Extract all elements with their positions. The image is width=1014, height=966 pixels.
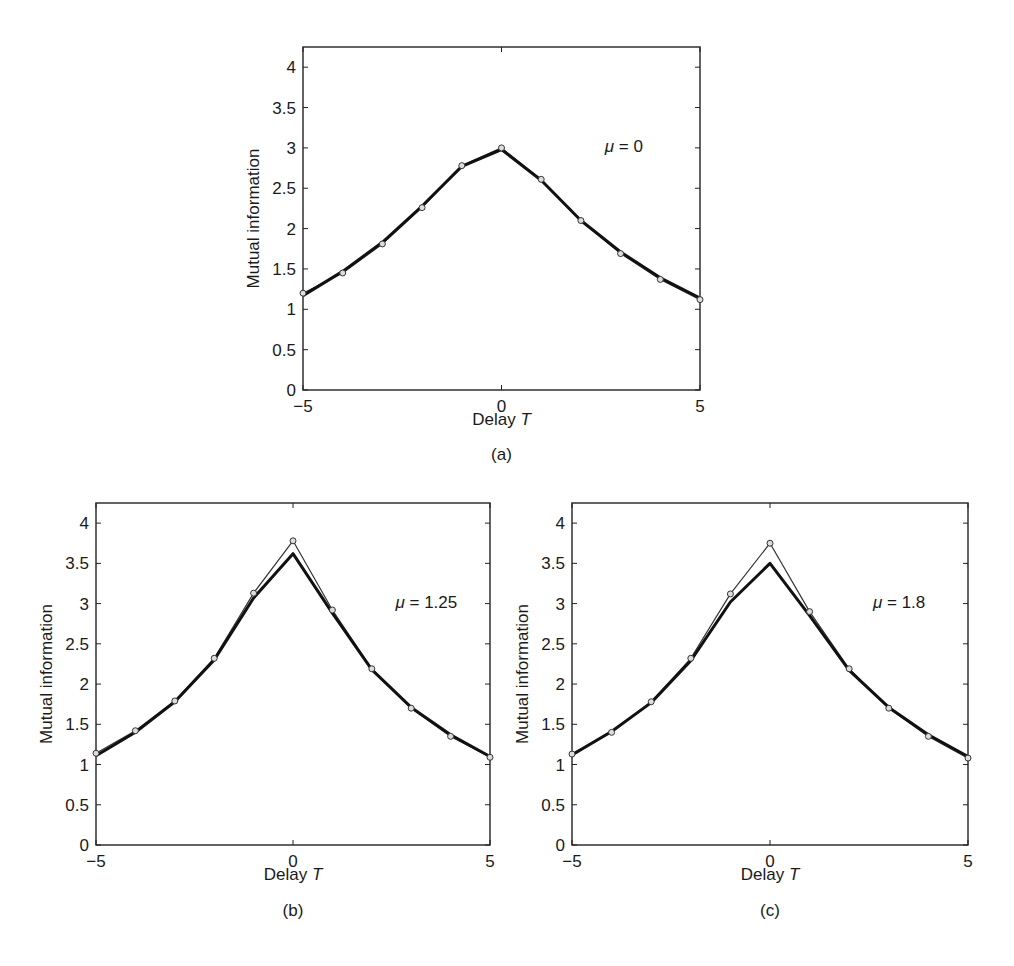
plot-c: 00.511.522.533.54−505μ = 1.8Mutual infor… [506, 496, 976, 946]
series-line-thick [303, 150, 700, 299]
y-axis-label: Mutual information [37, 604, 56, 744]
y-tick-label: 3 [287, 139, 296, 158]
y-tick-label: 4 [80, 514, 89, 533]
data-point-marker [290, 538, 296, 544]
x-tick-label: −5 [562, 852, 581, 871]
data-point-marker [618, 251, 624, 257]
x-axis-label: Delay T [472, 410, 532, 429]
data-point-marker [408, 705, 414, 711]
data-point-marker [925, 733, 931, 739]
y-tick-label: 4 [287, 58, 296, 77]
y-tick-label: 1 [80, 756, 89, 775]
series-line-thin [303, 148, 700, 300]
data-point-marker [448, 733, 454, 739]
data-point-marker [609, 729, 615, 735]
data-point-marker [419, 205, 425, 211]
data-point-marker [697, 297, 703, 303]
data-point-marker [459, 163, 465, 169]
y-tick-label: 1 [287, 300, 296, 319]
data-point-marker [846, 666, 852, 672]
mu-annotation: μ = 1.25 [394, 593, 457, 612]
x-tick-label: 5 [695, 397, 704, 416]
y-tick-label: 1 [556, 756, 565, 775]
y-tick-label: 3 [556, 595, 565, 614]
axes-frame [572, 503, 968, 845]
y-axis-label: Mutual information [244, 149, 263, 289]
data-point-marker [965, 755, 971, 761]
data-point-marker [251, 590, 257, 596]
series-line-thick [96, 554, 490, 757]
y-tick-label: 0.5 [65, 796, 89, 815]
y-tick-label: 3 [80, 595, 89, 614]
axes-frame [303, 47, 700, 390]
y-tick-label: 4 [556, 514, 565, 533]
y-tick-label: 2 [80, 675, 89, 694]
mu-annotation: μ = 1.8 [872, 593, 925, 612]
panel-caption: (c) [760, 901, 780, 920]
y-tick-label: 1.5 [65, 715, 89, 734]
data-point-marker [767, 540, 773, 546]
data-point-marker [578, 218, 584, 224]
y-tick-label: 3.5 [65, 554, 89, 573]
data-point-marker [807, 609, 813, 615]
data-point-marker [886, 705, 892, 711]
x-axis-label: Delay T [264, 865, 324, 884]
data-point-marker [727, 591, 733, 597]
data-point-marker [369, 666, 375, 672]
y-tick-label: 2.5 [65, 635, 89, 654]
data-point-marker [340, 270, 346, 276]
data-point-marker [300, 290, 306, 296]
panel-caption: (a) [491, 445, 512, 464]
data-point-marker [499, 145, 505, 151]
y-tick-label: 2 [556, 675, 565, 694]
y-tick-label: 3.5 [272, 99, 296, 118]
plot-a: 00.511.522.533.54−505μ = 0Mutual informa… [230, 40, 710, 480]
data-point-marker [211, 655, 217, 661]
data-point-marker [487, 754, 493, 760]
y-tick-label: 2 [287, 220, 296, 239]
x-axis-label: Delay T [741, 865, 801, 884]
data-point-marker [329, 607, 335, 613]
data-point-marker [569, 751, 575, 757]
x-tick-label: −5 [86, 852, 105, 871]
chart-panel-a: 00.511.522.533.54−505μ = 0Mutual informa… [230, 40, 710, 480]
panel-caption: (b) [283, 901, 304, 920]
y-tick-label: 1.5 [272, 260, 296, 279]
series-line-thin [96, 541, 490, 758]
y-tick-label: 1.5 [541, 715, 565, 734]
chart-panel-c: 00.511.522.533.54−505μ = 1.8Mutual infor… [506, 496, 976, 946]
y-tick-label: 2.5 [272, 179, 296, 198]
data-point-marker [648, 699, 654, 705]
y-axis-label: Mutual information [513, 604, 532, 744]
x-tick-label: 5 [485, 852, 494, 871]
data-point-marker [688, 655, 694, 661]
y-tick-label: 0.5 [541, 796, 565, 815]
x-tick-label: −5 [293, 397, 312, 416]
data-point-marker [132, 728, 138, 734]
y-tick-label: 0.5 [272, 341, 296, 360]
chart-panel-b: 00.511.522.533.54−505μ = 1.25Mutual info… [30, 496, 500, 946]
y-tick-label: 2.5 [541, 635, 565, 654]
series-line-thin [572, 543, 968, 758]
y-tick-label: 3.5 [541, 554, 565, 573]
x-tick-label: 5 [963, 852, 972, 871]
data-point-marker [538, 176, 544, 182]
data-point-marker [93, 750, 99, 756]
data-point-marker [379, 241, 385, 247]
plot-b: 00.511.522.533.54−505μ = 1.25Mutual info… [30, 496, 500, 946]
data-point-marker [172, 698, 178, 704]
mu-annotation: μ = 0 [604, 137, 643, 156]
data-point-marker [657, 276, 663, 282]
